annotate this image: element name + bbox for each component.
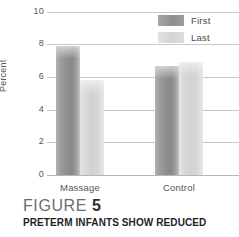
y-tick-10: 10 (4, 7, 44, 16)
y-tick-0: 0 (4, 170, 44, 179)
chart-legend: First Last (158, 13, 234, 47)
caption-title: PRETERM INFANTS SHOW REDUCED (23, 217, 239, 229)
figure-word: FIGURE (23, 197, 87, 214)
bar-highlight (179, 62, 203, 74)
figure-container: Percent 10 8 6 4 2 0 Massage Control (0, 0, 239, 237)
y-tick-2: 2 (4, 137, 44, 146)
bar-control-last[interactable] (179, 62, 203, 175)
bar-highlight (80, 80, 104, 92)
legend-item-first[interactable]: First (158, 13, 234, 28)
legend-item-last[interactable]: Last (158, 30, 234, 45)
x-label-massage: Massage (56, 182, 104, 193)
figure-number: 5 (92, 197, 101, 214)
legend-swatch-last-icon (158, 32, 184, 43)
bar-massage-last[interactable] (80, 80, 104, 175)
axis-baseline (47, 175, 239, 176)
legend-swatch-first-icon (158, 15, 184, 26)
legend-label-last: Last (191, 32, 210, 43)
bar-highlight (155, 66, 179, 78)
figure-caption: FIGURE 5 PRETERM INFANTS SHOW REDUCED (23, 196, 239, 229)
legend-label-first: First (191, 15, 210, 26)
y-tick-4: 4 (4, 105, 44, 114)
bar-control-first[interactable] (155, 66, 179, 175)
figure-label-line: FIGURE 5 (23, 196, 239, 215)
x-label-control: Control (155, 182, 203, 193)
bar-massage-first[interactable] (56, 46, 80, 175)
y-tick-6: 6 (4, 72, 44, 81)
bar-highlight (56, 46, 80, 58)
bar-chart: Percent 10 8 6 4 2 0 Massage Control (0, 0, 239, 190)
y-tick-8: 8 (4, 39, 44, 48)
